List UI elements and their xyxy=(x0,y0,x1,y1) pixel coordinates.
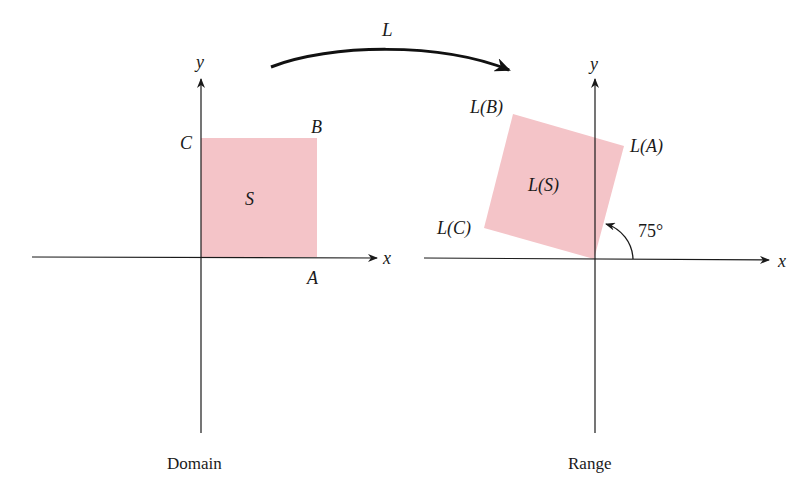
region-s-label: S xyxy=(245,189,254,209)
angle-label: 75° xyxy=(638,221,663,241)
range-panel: 75° y x L(B) L(A) L(C) L(S) Range xyxy=(424,54,786,473)
vertex-lb-label: L(B) xyxy=(469,97,503,118)
domain-x-axis xyxy=(32,257,377,258)
transformation-arrow: L xyxy=(271,19,509,70)
range-x-axis xyxy=(424,258,769,260)
domain-x-label: x xyxy=(382,248,391,268)
domain-panel: y x C B A S Domain xyxy=(32,52,391,473)
curved-arrow-icon xyxy=(271,49,509,70)
linear-transformation-diagram: y x C B A S Domain L 75° y x L(B) L(A) L… xyxy=(0,0,809,497)
angle-arc-icon xyxy=(606,224,633,259)
vertex-la-label: L(A) xyxy=(629,136,663,157)
region-ls-label: L(S) xyxy=(527,175,559,196)
vertex-a-label: A xyxy=(306,268,319,288)
range-x-label: x xyxy=(777,251,786,271)
domain-caption: Domain xyxy=(167,454,222,473)
vertex-c-label: C xyxy=(180,133,193,153)
vertex-lc-label: L(C) xyxy=(436,218,471,239)
range-caption: Range xyxy=(568,454,611,473)
square-s xyxy=(201,138,317,257)
range-y-label: y xyxy=(588,54,598,74)
transformation-label: L xyxy=(381,19,393,40)
vertex-b-label: B xyxy=(311,117,322,137)
domain-y-label: y xyxy=(194,52,204,72)
